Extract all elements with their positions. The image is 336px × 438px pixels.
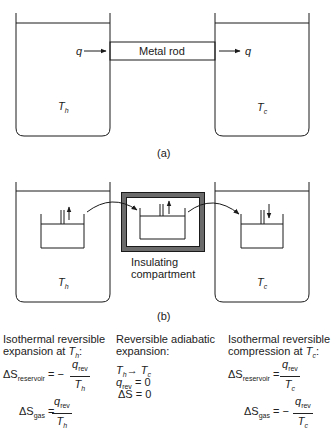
panel-b-label: (b) [157,310,170,322]
transfer-arrow-2 [188,203,239,214]
step1-eq2-fraction: qrev Th [52,395,72,432]
hot-temp-label-a: Th [58,100,69,117]
step3-title-2: compression at Tc: [228,345,319,362]
step1-eq1-lhs: ΔSreservoir = − [3,368,64,385]
compartment-label-1: Insulating [131,256,178,268]
hot-reservoir-a [16,13,110,136]
step3-eq2-fraction: qrev Tc [293,395,313,432]
step3-eq1-lhs: ΔSreservoir = [228,368,279,385]
gas-cylinder-cold [241,204,283,248]
hot-temp-label-b: Th [58,276,69,293]
panel-a-label: (a) [157,147,170,159]
step3-eq2-lhs: ΔSgas = − [244,405,289,422]
gas-cylinder-hot [41,207,84,248]
insulating-compartment [124,195,202,249]
step3-title-1: Isothermal reversible [228,333,330,345]
step1-eq2-lhs: ΔSgas = [19,405,54,422]
gas-cylinder-adiabatic [140,201,185,239]
heat-in-label: q [76,45,82,57]
step3-eq1-fraction: qrev Tc [280,358,300,395]
step1-eq1-fraction: qrev Th [70,358,90,395]
compartment-label-2: compartment [131,268,195,280]
step1-title-1: Isothermal reversible [3,333,105,345]
cold-temp-label-b: Tc [257,276,267,293]
heat-out-label: q [245,45,251,57]
transfer-arrow-1 [87,202,137,212]
step2-line3: ΔS = 0 [118,388,151,400]
cold-temp-label-a: Tc [257,101,267,118]
metal-rod-label: Metal rod [139,45,185,57]
step2-title-2: expansion: [116,345,169,357]
step2-title-1: Reversible adiabatic [116,333,215,345]
